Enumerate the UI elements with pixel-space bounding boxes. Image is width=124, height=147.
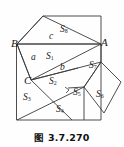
figure-caption: 图 3.7.270 xyxy=(34,130,89,144)
region-sub-S7: 7 xyxy=(94,64,97,70)
upper-triangle-region-S8 xyxy=(17,16,101,44)
vertex-label-B: B xyxy=(11,38,18,49)
side-label-a: a xyxy=(31,53,36,63)
vertex-label-C: C xyxy=(24,75,31,86)
region-sub-S2: 2 xyxy=(54,80,57,86)
vertex-label-A: A xyxy=(101,37,108,48)
region-sub-S8: 8 xyxy=(65,28,68,34)
side-label-c: c xyxy=(49,32,53,42)
region-label-S8: S8 xyxy=(60,25,68,35)
region-label-S5: S5 xyxy=(73,88,81,98)
region-label-S1: S1 xyxy=(46,52,54,62)
region-label-S4: S4 xyxy=(56,105,64,115)
region-sub-S3: 3 xyxy=(28,96,31,102)
region-sub-S5: 5 xyxy=(78,91,81,97)
region-sub-S1: 1 xyxy=(51,55,54,61)
region-label-S7: S7 xyxy=(89,61,97,71)
region-label-S2: S2 xyxy=(49,77,57,87)
figure-caption-bar: 图 3.7.270 xyxy=(0,126,124,147)
region-sub-S4: 4 xyxy=(61,108,64,114)
figure-container: B A C c a b S8 S1 S2 S3 S4 S5 S6 S7 图 3.… xyxy=(0,0,124,147)
region-label-S6: S6 xyxy=(96,90,104,100)
side-label-b: b xyxy=(60,63,65,73)
region-label-S3: S3 xyxy=(23,93,31,103)
region-sub-S6: 6 xyxy=(101,93,104,99)
